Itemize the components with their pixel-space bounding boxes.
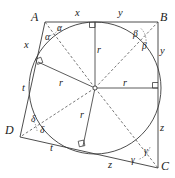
segment-label-x-top: x [75, 8, 80, 19]
segment-label-z-right: z [160, 123, 164, 134]
segment-label-y-top: y [118, 8, 123, 19]
angle-label-gamma-lower: γ [131, 156, 135, 166]
vertex-label-B: B [160, 11, 167, 23]
angle-label-beta-lower: β [142, 42, 147, 52]
radius-to-bottom-tangent [83, 88, 95, 146]
radius-label-right: r [123, 78, 127, 88]
radius-to-left-tangent [38, 62, 95, 88]
angle-label-beta-upper: β [133, 30, 138, 40]
radius-label-bottom: r [80, 110, 84, 120]
segment-label-y-right: y [160, 46, 165, 57]
radius-label-top: r [97, 45, 101, 55]
geometry-canvas [0, 0, 175, 178]
angle-label-delta-upper: δ [31, 115, 35, 125]
angle-label-gamma-upper: γ [144, 147, 148, 157]
angle-label-alpha-lower: α [45, 33, 50, 43]
circle-center-point [93, 86, 97, 90]
right-angle-mark-top [90, 22, 96, 28]
segment-label-x-left: x [24, 40, 29, 51]
center-to-vertex-a-line [45, 22, 95, 88]
radius-label-left: r [59, 78, 63, 88]
angle-label-delta-lower: δ [40, 126, 44, 136]
segment-label-t-left: t [22, 83, 25, 94]
segment-label-z-bottom: z [108, 160, 112, 171]
angle-label-alpha-upper: α [57, 24, 62, 34]
geometry-diagram: A B C D x y x y t z t z r r r r α α β β … [0, 0, 175, 178]
right-angle-mark-right [153, 83, 159, 89]
vertex-label-D: D [5, 124, 14, 136]
segment-label-t-bottom: t [50, 143, 53, 154]
vertex-label-C: C [161, 160, 169, 172]
vertex-label-A: A [31, 11, 38, 23]
